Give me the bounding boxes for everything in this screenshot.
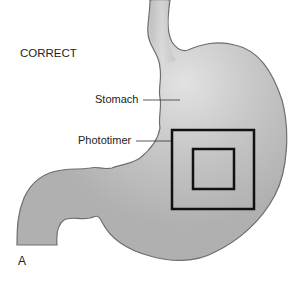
panel-letter: A (18, 254, 26, 268)
esophagus-shading (150, 0, 176, 66)
figure-title: CORRECT (20, 47, 77, 59)
stomach-label: Stomach (95, 93, 138, 105)
stomach-diagram (0, 0, 304, 283)
phototimer-label: Phototimer (78, 134, 131, 146)
